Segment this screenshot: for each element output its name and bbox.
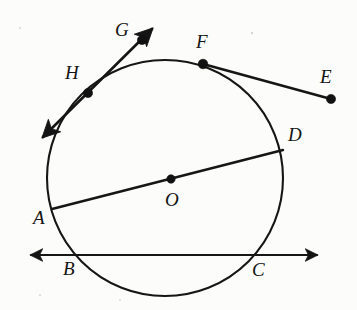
point-label-D: D [288,125,302,144]
point-dot-G [137,35,146,44]
point-label-C: C [252,260,265,279]
point-dots [83,35,335,183]
point-dot-H [83,88,92,97]
geometry-diagram: G H F E D O A B C [0,0,357,310]
segment-fe [203,64,331,99]
circle-outline [47,60,283,296]
point-label-O: O [165,190,179,209]
point-dot-F [198,59,208,69]
point-label-A: A [33,208,45,227]
point-label-E: E [320,67,332,86]
diagram-canvas [0,0,357,310]
point-label-H: H [65,63,79,82]
point-dot-O [167,175,175,183]
point-dot-E [326,94,335,103]
point-label-F: F [196,32,208,51]
point-label-B: B [63,259,75,278]
secant-hg [43,29,152,137]
point-label-G: G [115,20,129,39]
